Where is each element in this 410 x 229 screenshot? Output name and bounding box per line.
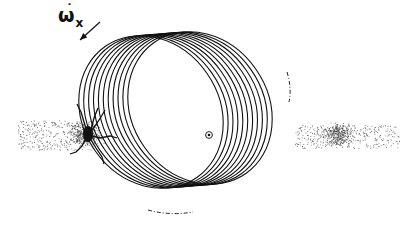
upper-right-tail (287, 72, 290, 102)
diagram-canvas (0, 0, 410, 229)
orbit-ellipse (79, 5, 282, 214)
ellipse-family (49, 3, 301, 216)
orbit-precession-diagram: ˙ωx (0, 0, 410, 229)
orbit-ellipse (84, 5, 287, 214)
orbit-ellipse (69, 6, 272, 215)
subscript-x: x (76, 16, 84, 30)
center-marker (206, 132, 213, 139)
bottom-tail (148, 210, 193, 214)
omega-dot-x-label: ˙ωx (58, 6, 82, 25)
rotation-arrow (80, 22, 100, 40)
dot-accent: ˙ (66, 2, 73, 16)
orbit-ellipse (64, 6, 267, 215)
